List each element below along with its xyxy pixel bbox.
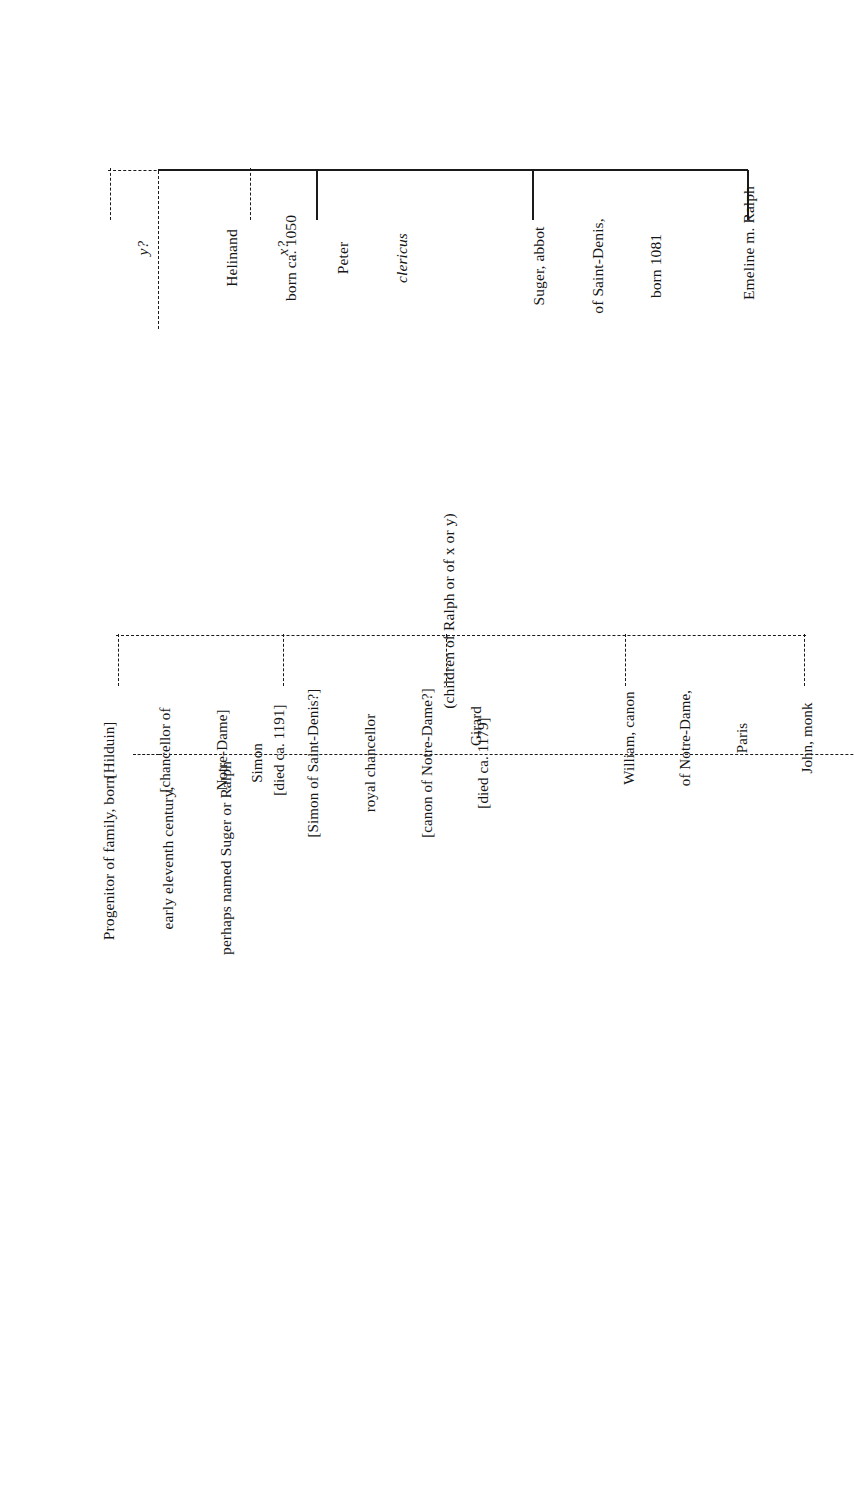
x-unknown-label: x? xyxy=(273,188,293,308)
node-emeline-label: Emeline m. Ralph xyxy=(700,128,798,358)
xy-dashed-bar xyxy=(108,170,258,171)
suger-abbot-line-3: born 1081 xyxy=(646,151,666,381)
william-canon-line-2: of Notre-Dame, xyxy=(676,613,695,863)
hilduin-line-1: [Hilduin] xyxy=(100,620,119,880)
node-x-unknown: x? xyxy=(234,188,332,308)
simon-line-5: [died ca. 1179] xyxy=(474,613,493,913)
node-baldwin: Baldwin xyxy=(833,883,854,1053)
hilduin-line-3: Notre-Dame] xyxy=(213,620,232,880)
y-unknown-label: y? xyxy=(133,188,153,308)
hilduin-line-4: [died ca. 1191] xyxy=(270,620,289,880)
simon-line-4: [canon of Notre-Dame?] xyxy=(418,613,437,913)
simon-line-3: royal chancellor xyxy=(361,613,380,913)
john-monk-line-1: John, monk xyxy=(798,613,817,863)
suger-abbot-line-1: Suger, abbot xyxy=(529,151,549,381)
emeline-line-1: Emeline m. Ralph xyxy=(739,128,759,358)
node-hilduin: [Hilduin] [chancellor of Notre-Dame] [di… xyxy=(62,620,326,880)
peter-line-2: clericus xyxy=(392,168,412,348)
rotated-chart-stage: Progenitor of family, born early elevent… xyxy=(0,0,854,1498)
node-y-unknown: y? xyxy=(94,188,192,308)
node-suger-abbot: Suger, abbot of Saint-Denis, born 1081 xyxy=(490,151,705,381)
suger-abbot-line-2: of Saint-Denis, xyxy=(588,151,608,381)
peter-line-1: Peter xyxy=(333,168,353,348)
hilduin-line-2: [chancellor of xyxy=(156,620,175,880)
genealogical-table-page: Progenitor of family, born early elevent… xyxy=(0,0,854,1498)
node-payen: Payen xyxy=(833,1081,854,1251)
william-canon-line-3: Paris xyxy=(733,613,752,863)
family-tree: Progenitor of family, born early elevent… xyxy=(0,0,854,1498)
william-canon-line-1: William, canon xyxy=(620,613,639,863)
node-william-canon: William, canon of Notre-Dame, Paris xyxy=(582,613,790,863)
